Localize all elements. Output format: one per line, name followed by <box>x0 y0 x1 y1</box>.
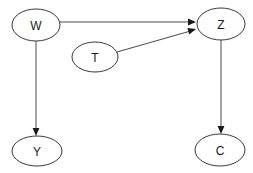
edge-z-to-c <box>218 40 225 134</box>
arrowhead-icon <box>218 126 225 134</box>
edge-line <box>117 30 194 52</box>
arrowhead-icon <box>33 128 40 136</box>
node-layer: WZTYC <box>12 8 245 166</box>
node-label: W <box>30 19 42 33</box>
node-label: T <box>91 51 99 65</box>
node-y[interactable]: Y <box>12 136 62 166</box>
edge-w-to-z <box>60 19 196 26</box>
node-c[interactable]: C <box>195 134 245 166</box>
causal-graph: WZTYC <box>0 0 253 173</box>
node-t[interactable]: T <box>72 42 118 72</box>
edge-w-to-y <box>33 41 40 136</box>
arrowhead-icon <box>188 19 196 26</box>
edge-layer <box>33 19 225 136</box>
diagram-canvas: WZTYC <box>0 0 253 173</box>
node-z[interactable]: Z <box>197 8 245 40</box>
node-label: Y <box>33 145 41 159</box>
node-label: C <box>216 144 225 158</box>
edge-t-to-z <box>117 26 197 52</box>
node-label: Z <box>217 18 224 32</box>
arrowhead-icon <box>187 26 197 35</box>
node-w[interactable]: W <box>12 9 60 41</box>
